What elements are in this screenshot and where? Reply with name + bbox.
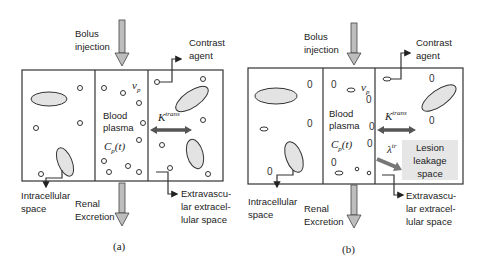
particle <box>201 77 206 82</box>
particle <box>34 126 39 131</box>
contrast-particle <box>383 77 391 81</box>
particle-zero: 0 <box>331 157 337 168</box>
ees-label-line3: lular space <box>181 214 227 225</box>
ees-label-line2: lar extracel- <box>406 203 456 214</box>
ees-pointer <box>156 172 176 194</box>
intracellular-label-line2: space <box>21 203 46 214</box>
cell-a-2 <box>53 145 77 178</box>
particle-zero: 0 <box>307 79 313 90</box>
blood-plasma-line1: Blood <box>103 110 127 121</box>
vp-symbol: vp <box>132 79 141 94</box>
renal-excretion-arrow <box>115 183 129 226</box>
particle <box>102 159 107 164</box>
bolus-label-line1: Bolus <box>75 28 99 39</box>
blood-plasma-line2: plasma <box>103 122 134 133</box>
compartment-diagram: Bolus injection Contrast agent vp Blood … <box>0 0 482 266</box>
particle <box>137 170 142 175</box>
vp-symbol: vp <box>361 81 370 96</box>
particle <box>335 171 343 175</box>
particle <box>201 118 206 123</box>
particle <box>367 171 371 175</box>
particle <box>260 127 268 131</box>
particle <box>78 121 83 126</box>
particle-zero: 0 <box>267 166 273 177</box>
renal-label-line2: Excretion <box>304 216 344 227</box>
particle <box>347 88 355 92</box>
panel-b: Bolus injection Contrast agent Lesion le… <box>248 23 463 256</box>
cell-a-1 <box>31 92 67 106</box>
particle <box>141 121 146 126</box>
particle <box>107 170 112 175</box>
bolus-injection-arrow <box>115 20 129 66</box>
renal-excretion-arrow <box>347 185 361 228</box>
lambda-tr-arrow <box>377 159 402 171</box>
lesion-label-line3: space <box>417 168 442 179</box>
bolus-label-line2: injection <box>304 44 339 55</box>
particle <box>78 86 83 91</box>
particle-zero: 0 <box>307 118 313 129</box>
cell-a-4 <box>183 137 206 170</box>
ees-label-line1: Extravascu- <box>406 190 456 201</box>
intracellular-label-line1: Intracellular <box>21 190 70 201</box>
cell-b-1 <box>255 88 297 104</box>
particle <box>206 172 211 177</box>
particle <box>126 164 131 169</box>
contrast-agent-label-line2: agent <box>189 50 213 61</box>
particle-zero: 0 <box>369 121 375 132</box>
lesion-label-line2: leakage <box>413 155 446 166</box>
particle <box>355 167 359 171</box>
particle <box>137 101 142 106</box>
cp-symbol: Cp(t) <box>104 140 126 155</box>
panel-a: Bolus injection Contrast agent vp Blood … <box>21 20 231 253</box>
bolus-injection-arrow <box>347 23 361 65</box>
lambda-symbol: λtr <box>386 142 397 155</box>
cell-b-2 <box>281 139 307 175</box>
intracellular-label-line2: space <box>248 209 273 220</box>
particle <box>160 143 165 148</box>
ktrans-symbol: Ktrans <box>384 109 407 122</box>
ktrans-symbol: Ktrans <box>157 110 180 123</box>
ktrans-double-arrow <box>150 126 192 134</box>
caption-b: (b) <box>342 243 355 256</box>
lesion-label-line1: Lesion <box>416 142 444 153</box>
contrast-particle <box>155 80 160 85</box>
particle-zero: 0 <box>331 79 337 90</box>
particle <box>39 172 44 177</box>
contrast-agent-pointer <box>391 53 409 79</box>
ees-label-line2: lar extracel- <box>181 201 231 212</box>
renal-label-line1: Renal <box>75 198 100 209</box>
bolus-label-line2: injection <box>75 41 110 52</box>
contrast-agent-label-line1: Contrast <box>189 37 225 48</box>
renal-label-line1: Renal <box>304 203 329 214</box>
particle-zero: 0 <box>367 138 373 149</box>
cell-b-3 <box>418 80 460 116</box>
contrast-agent-label-line2: agent <box>416 50 440 61</box>
ees-pointer <box>382 175 402 195</box>
particle <box>121 91 126 96</box>
caption-a: (a) <box>113 240 126 253</box>
particle <box>137 138 142 143</box>
renal-label-line2: Excretion <box>75 211 115 222</box>
contrast-agent-label-line1: Contrast <box>416 37 452 48</box>
intracellular-pointer <box>46 170 62 186</box>
blood-plasma-line2: plasma <box>329 120 360 131</box>
bolus-label-line1: Bolus <box>304 31 328 42</box>
particle-zero: 0 <box>429 73 435 84</box>
ktrans-double-arrow <box>377 126 416 134</box>
particle-zero: 0 <box>429 115 435 126</box>
ees-label-line1: Extravascu- <box>181 188 231 199</box>
blood-plasma-line1: Blood <box>329 108 353 119</box>
ees-label-line3: lular space <box>406 216 452 227</box>
particle <box>102 86 107 91</box>
particle <box>168 166 173 171</box>
intracellular-label-line1: Intracellular <box>248 196 297 207</box>
cp-symbol: Cp(t) <box>331 138 353 153</box>
